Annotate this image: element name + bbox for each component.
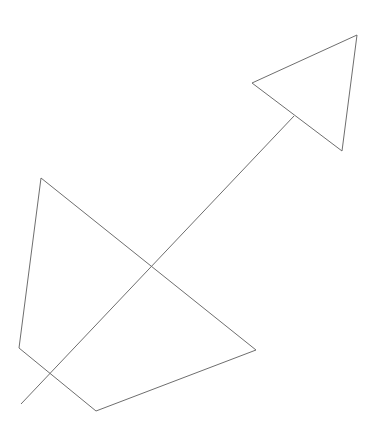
triangle-shape bbox=[252, 35, 357, 151]
diagonal-line bbox=[21, 116, 294, 404]
drawing-canvas bbox=[0, 0, 373, 435]
quadrilateral-shape bbox=[19, 178, 256, 411]
